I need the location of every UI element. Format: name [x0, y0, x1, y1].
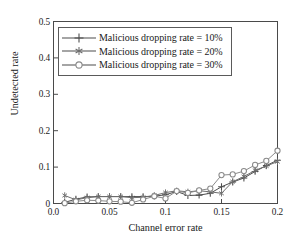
chart-legend: Malicious dropping rate = 10% Malicious … — [58, 27, 232, 76]
x-axis-tick-labels: 0.00.050.10.150.2 — [0, 207, 298, 221]
legend-item: Malicious dropping rate = 20% — [62, 45, 227, 59]
x-tick-label: 0.05 — [102, 207, 118, 217]
legend-item: Malicious dropping rate = 10% — [62, 31, 227, 45]
circle-icon — [74, 59, 85, 70]
star-icon — [74, 46, 85, 57]
y-axis-title: Undetected rate — [9, 24, 20, 144]
legend-item: Malicious dropping rate = 30% — [62, 58, 227, 72]
circle-marker-sample — [62, 58, 96, 71]
x-tick-label: 0.15 — [214, 207, 230, 217]
x-tick-label: 0.2 — [272, 207, 283, 217]
y-tick-label: 0.5 — [39, 17, 50, 27]
plus-icon — [74, 32, 85, 43]
y-tick-label: 0.2 — [39, 126, 50, 136]
y-tick-label: 0.4 — [39, 53, 50, 63]
y-tick-label: 0.1 — [39, 162, 50, 172]
x-tick-label: 0.0 — [48, 207, 59, 217]
legend-item-label: Malicious dropping rate = 20% — [96, 46, 223, 57]
x-axis-title: Channel error rate — [53, 222, 278, 233]
plus-marker-sample — [62, 31, 96, 44]
star-marker-sample — [62, 45, 96, 58]
y-tick-label: 0.3 — [39, 89, 50, 99]
legend-item-label: Malicious dropping rate = 10% — [96, 32, 223, 43]
legend-item-label: Malicious dropping rate = 30% — [96, 59, 223, 70]
chart-figure: 00.10.20.30.40.5 0.00.050.10.150.2 Undet… — [0, 0, 298, 250]
x-tick-label: 0.1 — [160, 207, 171, 217]
